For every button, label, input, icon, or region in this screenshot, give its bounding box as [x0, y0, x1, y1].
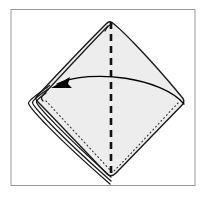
napkin-fold-figure	[0, 0, 205, 197]
diagram-stage: Napkin fold step diagram Square napkin r…	[0, 0, 205, 197]
